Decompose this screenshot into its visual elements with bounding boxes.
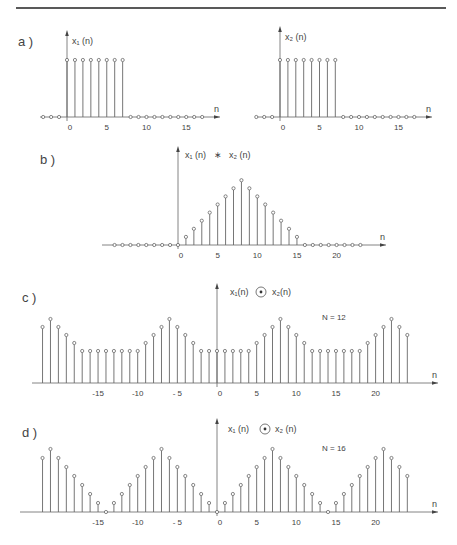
tick-label: 10 [292, 389, 301, 398]
stem-marker [271, 325, 274, 328]
stem-marker [89, 349, 92, 352]
stem-marker [366, 465, 369, 468]
stem-marker [390, 317, 393, 320]
stem-marker [129, 115, 132, 118]
tick-label: -10 [132, 518, 144, 527]
panel-d-plot: -15-10- 505101520n [20, 418, 438, 527]
stem-marker [406, 333, 409, 336]
stem-marker [342, 115, 345, 118]
stem-marker [239, 483, 242, 486]
circular-convolution-dot [264, 428, 267, 431]
stem-marker [365, 115, 368, 118]
stem-marker [326, 58, 329, 61]
stem-marker [303, 341, 306, 344]
stem-marker [351, 243, 354, 246]
stem-marker [359, 243, 362, 246]
stem-marker [311, 243, 314, 246]
stem-marker [303, 243, 306, 246]
stem-marker [272, 211, 275, 214]
stem-marker [295, 474, 298, 477]
stem-marker [357, 115, 360, 118]
stem-marker [326, 349, 329, 352]
stem-marker [207, 501, 210, 504]
stem-marker [81, 349, 84, 352]
panel-d-note: N = 16 [322, 444, 346, 453]
stem-marker [128, 349, 131, 352]
stem-marker [405, 115, 408, 118]
stem-marker [295, 235, 298, 238]
stem-marker [145, 243, 148, 246]
stem-marker [318, 501, 321, 504]
panel-a-right-title: x₂ (n) [285, 32, 307, 42]
stem-marker [153, 115, 156, 118]
stem-marker [358, 349, 361, 352]
stem-marker [397, 115, 400, 118]
tick-label: 5 [254, 389, 259, 398]
panel-c-label: c ) [22, 290, 36, 305]
tick-label: 10 [292, 518, 301, 527]
stem-marker [73, 58, 76, 61]
stem-marker [239, 349, 242, 352]
stem-marker [176, 243, 179, 246]
stem-marker [382, 325, 385, 328]
stem-marker [160, 325, 163, 328]
stem-marker [104, 510, 107, 513]
stem-marker [373, 115, 376, 118]
stem-marker [41, 456, 44, 459]
stem-marker [65, 465, 68, 468]
stem-marker [343, 243, 346, 246]
stem-marker [113, 243, 116, 246]
tick-label: -10 [132, 389, 144, 398]
stem-marker [168, 243, 171, 246]
axis-label-n: n [426, 104, 431, 114]
stem-marker [121, 243, 124, 246]
stem-marker [121, 58, 124, 61]
stem-marker [200, 492, 203, 495]
stem-marker [295, 333, 298, 336]
stem-marker [185, 115, 188, 118]
stem-marker [231, 492, 234, 495]
stem-marker [128, 483, 131, 486]
stem-marker [342, 349, 345, 352]
stem-marker [42, 115, 45, 118]
panel-c-title2: x₂(n) [272, 287, 291, 297]
stem-marker [398, 465, 401, 468]
stem-marker [152, 456, 155, 459]
panel-b-label: b ) [40, 152, 55, 167]
stem-marker [398, 325, 401, 328]
tick-label: 15 [331, 389, 340, 398]
stem-marker [255, 115, 258, 118]
tick-label: 5 [105, 123, 110, 132]
stem-marker [326, 510, 329, 513]
stem-marker [57, 325, 60, 328]
stem-marker [200, 219, 203, 222]
stem-marker [215, 510, 218, 513]
stem-marker [374, 456, 377, 459]
stem-marker [350, 349, 353, 352]
axis-label-n: n [432, 370, 437, 380]
panel-a-right-plot: 051015n [255, 26, 432, 132]
stem-marker [335, 243, 338, 246]
stem-marker [161, 115, 164, 118]
stem-marker [319, 243, 322, 246]
stem-marker [184, 235, 187, 238]
stem-marker [342, 492, 345, 495]
stem-marker [311, 349, 314, 352]
stem-marker [279, 219, 282, 222]
stem-marker [136, 474, 139, 477]
tick-label: 15 [182, 123, 191, 132]
tick-label: 0 [218, 389, 223, 398]
circular-convolution-dot [260, 291, 263, 294]
stem-marker [81, 58, 84, 61]
stem-marker [73, 474, 76, 477]
stem-marker [215, 349, 218, 352]
stem-marker [152, 333, 155, 336]
stem-marker [207, 349, 210, 352]
stem-marker [263, 333, 266, 336]
stem-marker [374, 333, 377, 336]
stem-marker [176, 465, 179, 468]
tick-label: 15 [292, 251, 301, 260]
panel-a-left-plot: 051015n [40, 30, 220, 132]
tick-label: 15 [394, 123, 403, 132]
stem-marker [279, 317, 282, 320]
